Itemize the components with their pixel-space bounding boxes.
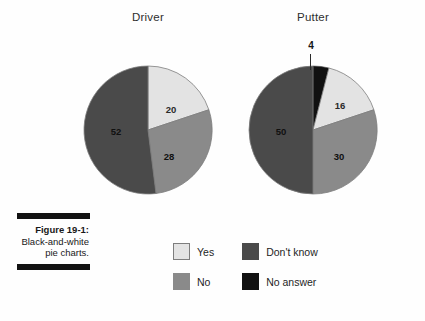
figure-caption-text: Black-and-white pie charts. <box>17 236 89 259</box>
figure-caption: Figure 19-1: Black-and-white pie charts. <box>17 219 90 264</box>
pie-label-putter-noanswer: 4 <box>296 40 326 51</box>
figure-caption-block: Figure 19-1: Black-and-white pie charts. <box>17 213 90 270</box>
pie-label-driver-no: 28 <box>164 151 175 162</box>
pie-chart-driver: 20 28 52 <box>82 64 214 196</box>
chart-title-putter: Putter <box>243 11 383 23</box>
pie-label-driver-dontknow: 52 <box>111 126 122 137</box>
pie-putter-svg: 16 30 50 <box>247 64 379 196</box>
pie-driver-slices <box>84 66 212 194</box>
pie-label-putter-yes: 16 <box>335 100 346 111</box>
pie-label-putter-no: 30 <box>334 151 345 162</box>
legend-item-yes: Yes <box>173 243 214 260</box>
legend-swatch-yes-icon <box>173 243 190 260</box>
legend-item-no-answer: No answer <box>242 273 318 290</box>
pie-label-driver-yes: 20 <box>166 104 177 115</box>
legend-item-dont-know: Don't know <box>242 243 318 260</box>
legend-label-no: No <box>197 276 210 288</box>
legend: Yes Don't know No No answer <box>173 243 318 290</box>
legend-label-dont-know: Don't know <box>266 246 318 258</box>
callout-leader-line <box>310 54 311 70</box>
legend-swatch-no-answer-icon <box>242 273 259 290</box>
caption-rule-bottom <box>17 264 90 270</box>
legend-swatch-no-icon <box>173 273 190 290</box>
pie-label-putter-dontknow: 50 <box>276 126 287 137</box>
chart-title-driver: Driver <box>78 11 218 23</box>
legend-label-no-answer: No answer <box>266 276 316 288</box>
pie-driver-svg: 20 28 52 <box>82 64 214 196</box>
figure-page: Driver 20 28 52 Putter <box>0 0 425 321</box>
pie-chart-putter: 16 30 50 <box>247 64 379 196</box>
legend-item-no: No <box>173 273 214 290</box>
legend-label-yes: Yes <box>197 246 214 258</box>
pie-putter-slices <box>249 66 377 194</box>
figure-caption-number: Figure 19-1: <box>17 224 89 236</box>
legend-swatch-dont-know-icon <box>242 243 259 260</box>
